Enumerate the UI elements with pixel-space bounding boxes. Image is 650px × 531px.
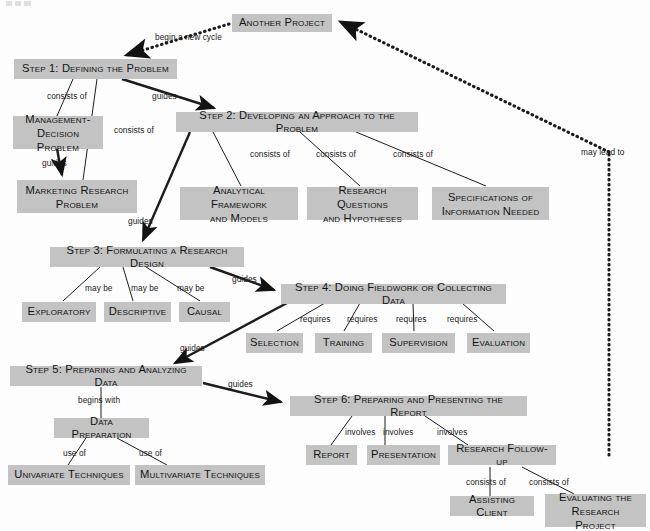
node-multivariate-techniques[interactable]: Multivariate Techniques xyxy=(135,465,265,485)
node-research-followup[interactable]: Research Follow-up xyxy=(448,445,556,465)
node-supervision[interactable]: Supervision xyxy=(382,333,455,353)
node-step2[interactable]: Step 2: Developing an Approach to the Pr… xyxy=(176,112,418,132)
scan-artifact-mark xyxy=(6,1,32,6)
node-assisting-client[interactable]: Assisting Client xyxy=(450,496,534,516)
edge-label-step1-consists-of-1: consists of xyxy=(47,92,87,101)
node-research-questions-and-hypotheses[interactable]: Research Questions and Hypotheses xyxy=(307,187,418,220)
edge-label-step2-consists-of-1: consists of xyxy=(250,150,290,159)
edge-label-data-prep-use-of-1: use of xyxy=(63,449,86,458)
edge-label-step3-may-be-3: may be xyxy=(177,284,205,293)
edge-label-step3-may-be-1: may be xyxy=(85,284,113,293)
edge-label-step4-guides: guides xyxy=(180,344,205,353)
edge-label-step2-consists-of-3: consists of xyxy=(393,150,433,159)
node-causal[interactable]: Causal xyxy=(179,302,230,322)
node-exploratory[interactable]: Exploratory xyxy=(22,302,96,322)
diagram-canvas: Another Project Step 1: Defining the Pro… xyxy=(0,0,650,531)
edge-label-step4-requires-4: requires xyxy=(447,315,477,324)
edge-label-step3-may-be-2: may be xyxy=(131,284,159,293)
node-training[interactable]: Training xyxy=(315,333,372,353)
node-presentation[interactable]: Presentation xyxy=(367,445,440,465)
node-step6[interactable]: Step 6: Preparing and Presenting the Rep… xyxy=(290,396,527,416)
edge-label-step6-involves-1: involves xyxy=(345,428,375,437)
node-specifications-of-information-needed[interactable]: Specifications of Information Needed xyxy=(432,187,549,220)
edge-label-followup-consists-of-2: consists of xyxy=(529,478,569,487)
edge-label-step4-requires-3: requires xyxy=(396,315,426,324)
edge-label-step5-begins-with: begins with xyxy=(78,396,120,405)
edge-label-step3-guides: guides xyxy=(232,275,257,284)
edge-label-begin-a-new-cycle: begin a new cycle xyxy=(155,33,222,42)
edge-label-step4-requires-1: requires xyxy=(300,315,330,324)
node-analytical-framework-and-models[interactable]: Analytical Framework and Models xyxy=(180,187,298,220)
edge-label-data-prep-use-of-2: use of xyxy=(139,449,162,458)
edge-label-step1-guides: guides xyxy=(152,92,177,101)
edge-label-step2-guides: guides xyxy=(128,217,153,226)
edge-label-mgmt-guides: guides xyxy=(42,159,67,168)
node-step4[interactable]: Step 4: Doing Fieldwork or Collecting Da… xyxy=(281,284,506,304)
node-step5[interactable]: Step 5: Preparing and Analyzing Data xyxy=(10,366,202,386)
edge-label-step6-involves-3: involves xyxy=(437,428,467,437)
edge-label-step5-guides: guides xyxy=(228,380,253,389)
edge-label-may-lead-to: may lead to xyxy=(581,148,624,157)
edge-label-step6-involves-2: involves xyxy=(383,428,413,437)
edge-step2-to-analytical xyxy=(213,132,241,186)
node-evaluation[interactable]: Evaluation xyxy=(467,333,530,353)
edge-label-step1-consists-of-2: consists of xyxy=(114,126,154,135)
node-descriptive[interactable]: Descriptive xyxy=(104,302,171,322)
node-marketing-research-problem[interactable]: Marketing Research Problem xyxy=(17,180,137,213)
node-selection[interactable]: Selection xyxy=(246,333,303,353)
edge-label-step4-requires-2: requires xyxy=(347,315,377,324)
edge-label-followup-consists-of-1: consists of xyxy=(466,478,506,487)
edge-step2-to-specifications xyxy=(356,132,486,186)
edge-label-step2-consists-of-2: consists of xyxy=(316,150,356,159)
node-another-project[interactable]: Another Project xyxy=(232,14,332,32)
node-univariate-techniques[interactable]: Univariate Techniques xyxy=(8,465,130,485)
node-evaluating-the-research-project[interactable]: Evaluating the Research Project xyxy=(545,494,646,527)
node-management-decision-problem[interactable]: Management- Decision Problem xyxy=(13,116,103,149)
node-data-preparation[interactable]: Data Preparation xyxy=(54,418,149,438)
node-step3[interactable]: Step 3: Formulating a Research Design xyxy=(50,247,244,267)
node-step1[interactable]: Step 1: Defining the Problem xyxy=(14,59,177,79)
node-report[interactable]: Report xyxy=(306,445,357,465)
edge-step2-to-research-questions xyxy=(300,132,360,186)
